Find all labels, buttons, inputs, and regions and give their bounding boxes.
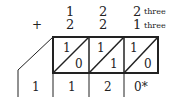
base-subscript: three bbox=[144, 22, 166, 30]
addend2-digit: 1 bbox=[133, 18, 141, 31]
result-digit: 2 bbox=[104, 81, 112, 94]
addend2-digit: 2 bbox=[99, 18, 107, 31]
addend2-digit: 2 bbox=[66, 18, 74, 31]
cell-top-digit: 1 bbox=[97, 42, 105, 54]
cell-bottom-digit: 0 bbox=[75, 58, 83, 70]
result-digit: 1 bbox=[32, 81, 40, 94]
cell-top-digit: 1 bbox=[130, 42, 138, 54]
cell-top-digit: 1 bbox=[63, 42, 71, 54]
cell-diagonal bbox=[53, 37, 89, 73]
outer-diagonal bbox=[18, 37, 53, 70]
cell-bottom-digit: 0 bbox=[144, 58, 152, 70]
cell-diagonal bbox=[89, 37, 124, 73]
cell-bottom-digit: 1 bbox=[110, 58, 118, 70]
base-subscript: three bbox=[144, 8, 166, 16]
result-digit: 1 bbox=[68, 81, 76, 94]
plus-operator: + bbox=[32, 19, 42, 32]
result-digit: 0* bbox=[134, 81, 148, 94]
